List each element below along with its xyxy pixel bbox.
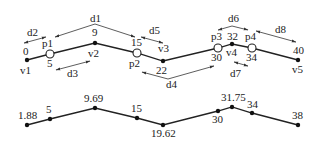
bottom-polyline: 1.88 5 9.69 15 19.62 30 31.75 34 38 [18, 91, 304, 139]
label-v2: v2 [88, 47, 99, 59]
value-v2: 9 [92, 26, 98, 38]
label-d6: d6 [228, 12, 240, 24]
bottom-value-1: 1.88 [18, 109, 38, 121]
label-v1: v1 [20, 64, 31, 76]
label-v5: v5 [292, 63, 304, 75]
label-d5: d5 [149, 24, 161, 36]
label-d7: d7 [230, 67, 242, 79]
bottom-point-3 [93, 106, 97, 110]
bottom-value-2: 5 [46, 103, 52, 115]
bottom-point-7 [230, 105, 234, 109]
bottom-point-4 [135, 116, 139, 120]
polyline-diagram: v1 p1 v2 p2 v3 p3 v4 p4 v5 0 5 9 15 22 3… [0, 0, 320, 146]
bottom-value-5: 19.62 [151, 127, 176, 139]
value-v5: 40 [293, 44, 305, 56]
value-p2: 15 [131, 36, 143, 48]
point-p2-ring [133, 49, 141, 57]
bottom-value-9: 38 [292, 109, 304, 121]
vertex-v5-dot [296, 58, 300, 62]
vertex-v2-dot [93, 41, 97, 45]
label-d8: d8 [275, 23, 287, 35]
label-p1: p1 [42, 37, 53, 49]
label-p2: p2 [129, 57, 140, 69]
value-p1: 5 [47, 57, 53, 69]
vertex-v3-dot [161, 59, 165, 63]
label-p4: p4 [245, 30, 257, 42]
bottom-value-6: 30 [212, 113, 224, 125]
bottom-point-8 [250, 111, 254, 115]
value-v1: 0 [23, 45, 29, 57]
bottom-value-4: 15 [131, 102, 143, 114]
label-p3: p3 [211, 30, 223, 42]
bottom-value-8: 34 [247, 98, 259, 110]
value-p3: 30 [211, 51, 223, 63]
label-d2: d2 [27, 26, 38, 38]
label-d1: d1 [90, 12, 101, 24]
vertex-v1-dot [25, 58, 29, 62]
label-d3: d3 [67, 67, 79, 79]
bottom-value-3: 9.69 [84, 92, 104, 104]
bottom-point-9 [296, 123, 300, 127]
label-v4: v4 [226, 46, 238, 58]
bottom-point-1 [25, 123, 29, 127]
label-v3: v3 [158, 42, 170, 54]
label-d4: d4 [166, 78, 178, 90]
value-p4: 34 [246, 51, 258, 63]
bottom-point-2 [48, 117, 52, 121]
value-v4: 32 [227, 30, 238, 42]
bottom-value-7: 31.75 [221, 91, 246, 103]
value-v3: 22 [156, 64, 167, 76]
